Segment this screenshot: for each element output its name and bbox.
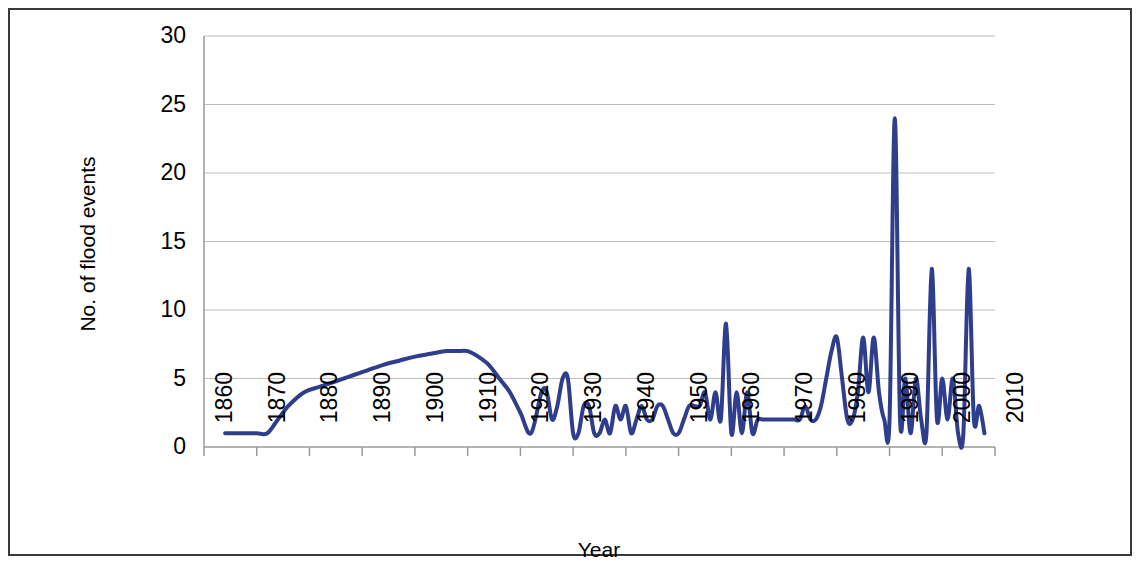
x-tick-label: 1900 <box>424 372 447 462</box>
x-axis-title: Year <box>204 538 994 562</box>
x-tick-label: 1980 <box>846 372 869 462</box>
x-tick-label: 1920 <box>529 372 552 462</box>
x-tick-label: 1870 <box>266 372 289 462</box>
x-tick-label: 2000 <box>951 372 974 462</box>
chart-plot-area: 302520151050 186018701880189019001910192… <box>0 0 1142 573</box>
x-tick-label: 1860 <box>213 372 236 462</box>
x-tick-label: 1890 <box>371 372 394 462</box>
y-axis-title: No. of flood events <box>76 94 100 394</box>
x-tick-label: 1950 <box>688 372 711 462</box>
x-tick-label: 1880 <box>318 372 341 462</box>
x-tick-label: 1930 <box>582 372 605 462</box>
x-tick-label: 2010 <box>1004 372 1027 462</box>
x-tick-label: 1940 <box>635 372 658 462</box>
x-tick-label: 1990 <box>899 372 922 462</box>
x-tick-label: 1960 <box>740 372 763 462</box>
x-axis-tick-labels: 1860187018801890190019101920193019401950… <box>0 0 1142 573</box>
x-tick-label: 1970 <box>793 372 816 462</box>
chart-figure: 302520151050 186018701880189019001910192… <box>0 0 1142 573</box>
x-tick-label: 1910 <box>477 372 500 462</box>
